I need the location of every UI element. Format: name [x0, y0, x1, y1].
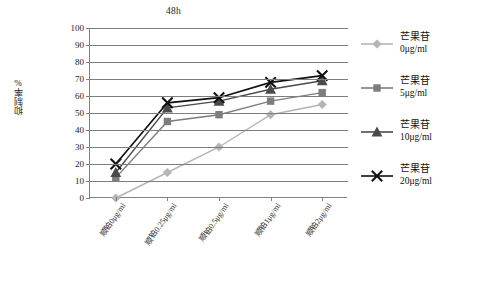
legend-marker-triangle-icon	[360, 124, 394, 140]
gridline	[90, 28, 348, 29]
legend-label: 芒果苷0μg/ml	[400, 31, 430, 55]
x-axis-tick-label: 顺铂0.5μg/ml	[198, 202, 230, 243]
gridline	[90, 62, 348, 63]
y-axis-tickmark	[86, 130, 90, 131]
gridline	[90, 164, 348, 165]
y-axis-tick-label: 10	[56, 177, 84, 186]
y-axis-tickmark	[86, 28, 90, 29]
legend-marker-square-icon	[360, 80, 394, 96]
legend-item[interactable]: 芒果苷10μg/ml	[360, 122, 472, 166]
y-axis-tickmark	[86, 79, 90, 80]
data-point-diamond	[372, 39, 381, 48]
gridline	[90, 45, 348, 46]
legend-label: 芒果苷5μg/ml	[400, 75, 430, 99]
y-axis-tick-label: 40	[56, 126, 84, 135]
y-axis-tickmark	[86, 96, 90, 97]
data-point-diamond	[318, 100, 327, 109]
y-axis-tick-labels: 1009080706050403020100	[52, 0, 84, 295]
data-point-square	[373, 84, 380, 91]
chart-legend: 芒果苷0μg/ml芒果苷5μg/ml芒果苷10μg/ml芒果苷20μg/ml	[360, 34, 472, 210]
legend-label: 芒果苷10μg/ml	[400, 119, 432, 143]
data-point-square	[267, 97, 274, 104]
y-axis-tickmark	[86, 147, 90, 148]
data-point-diamond	[266, 110, 275, 119]
gridline	[90, 181, 348, 182]
y-axis-tick-label: 70	[56, 75, 84, 84]
y-axis-tickmark	[86, 45, 90, 46]
y-axis-tickmark	[86, 164, 90, 165]
y-axis-tick-label: 0	[56, 194, 84, 203]
y-axis-tick-label: 100	[56, 24, 84, 33]
data-point-square	[164, 118, 171, 125]
gridline	[90, 79, 348, 80]
legend-item[interactable]: 芒果苷5μg/ml	[360, 78, 472, 122]
y-axis-tick-label: 60	[56, 92, 84, 101]
x-axis-tick-label: 顺铂1μg/ml	[253, 202, 282, 239]
gridline	[90, 130, 348, 131]
x-axis-tick-label: 顺铂0μg/ml	[98, 202, 127, 239]
gridline	[90, 113, 348, 114]
y-axis-tick-label: 80	[56, 58, 84, 67]
y-axis-tickmark	[86, 181, 90, 182]
chart-container: 48h 抑制率% 1009080706050403020100 顺铂0μg/ml…	[0, 0, 477, 295]
y-axis-tick-label: 90	[56, 41, 84, 50]
legend-marker-cross-x-icon	[360, 168, 394, 184]
legend-marker-diamond-icon	[360, 36, 394, 52]
y-axis-label: 抑制率%	[14, 78, 28, 115]
y-axis-tick-label: 50	[56, 109, 84, 118]
x-axis-tick-label: 顺铂2μg/ml	[305, 202, 334, 239]
legend-item[interactable]: 芒果苷20μg/ml	[360, 166, 472, 210]
y-axis-tickmark	[86, 62, 90, 63]
x-axis-tick-label: 顺铂0.25μg/ml	[144, 202, 179, 247]
legend-item[interactable]: 芒果苷0μg/ml	[360, 34, 472, 78]
x-axis-tick-labels: 顺铂0μg/ml顺铂0.25μg/ml顺铂0.5μg/ml顺铂1μg/ml顺铂2…	[89, 198, 347, 293]
legend-label: 芒果苷20μg/ml	[400, 163, 432, 187]
y-axis-tick-label: 20	[56, 160, 84, 169]
data-point-diamond	[163, 168, 172, 177]
gridline	[90, 147, 348, 148]
plot-area	[89, 28, 347, 198]
y-axis-tick-label: 30	[56, 143, 84, 152]
gridline	[90, 96, 348, 97]
y-axis-tickmark	[86, 113, 90, 114]
